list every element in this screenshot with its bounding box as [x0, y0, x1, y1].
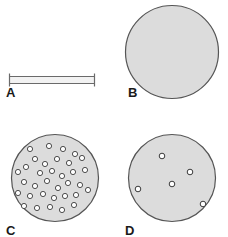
pore — [73, 192, 78, 197]
pore — [55, 185, 60, 190]
pore — [51, 195, 56, 200]
pore — [59, 207, 64, 212]
panel-label-a: A — [6, 86, 15, 99]
panel-a-side-view: A — [0, 0, 114, 114]
pore — [135, 186, 141, 192]
pore — [32, 156, 37, 161]
pore — [47, 204, 52, 209]
pore — [49, 168, 54, 173]
pore — [79, 155, 84, 160]
pore — [200, 201, 206, 207]
pore — [66, 160, 71, 165]
pore — [27, 146, 32, 151]
pore — [60, 146, 65, 151]
pore — [159, 153, 165, 159]
pore — [15, 190, 20, 195]
pore — [40, 191, 45, 196]
panel-b-plain-disc: B — [114, 0, 228, 114]
pore — [72, 151, 77, 156]
figure-container: A B — [0, 0, 228, 237]
panel-d-sparse-pores: D — [114, 125, 228, 237]
pore — [85, 187, 90, 192]
panel-c-graphic — [0, 125, 114, 237]
pore — [37, 170, 42, 175]
pore — [70, 169, 75, 174]
pore — [21, 203, 26, 208]
pore — [54, 156, 59, 161]
pore — [71, 202, 76, 207]
pore — [23, 164, 28, 169]
panel-label-d: D — [125, 224, 134, 237]
pore — [77, 182, 82, 187]
pore — [15, 169, 20, 174]
panel-a-graphic — [0, 0, 114, 114]
pore — [59, 173, 64, 178]
pore — [32, 183, 37, 188]
pore — [34, 205, 39, 210]
pore — [27, 193, 32, 198]
pore — [46, 143, 51, 148]
panel-c-dense-pores: C — [0, 125, 114, 237]
pore — [21, 179, 26, 184]
disc-face-b — [126, 6, 219, 99]
pore — [44, 178, 49, 183]
disc-face-d — [129, 135, 216, 222]
panel-label-c: C — [6, 224, 15, 237]
disc-side-bar — [10, 77, 95, 84]
pore — [187, 169, 193, 175]
panel-label-b: B — [128, 86, 137, 99]
panel-d-graphic — [114, 125, 228, 237]
pore — [169, 181, 175, 187]
pore — [65, 180, 70, 185]
pore — [42, 161, 47, 166]
pore — [82, 167, 87, 172]
pore — [62, 193, 67, 198]
